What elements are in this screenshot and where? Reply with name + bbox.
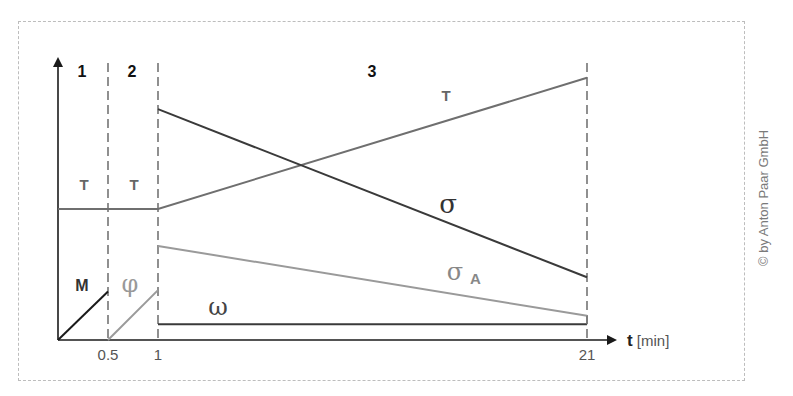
phase-label: 2 [128,63,137,80]
series-label-T: T [129,176,138,193]
x-axis-label: t [min] [627,331,669,350]
series-line-σ [158,109,587,277]
x-tick-label: 1 [154,346,162,363]
x-tick-label: 21 [579,346,596,363]
series-label-M: M [75,277,88,294]
phase-label: 1 [78,63,87,80]
phase-label: 3 [368,63,377,80]
x-tick-label: 0.5 [98,346,119,363]
series-label-T: T [79,176,88,193]
copyright-notice: © by Anton Paar GmbH [756,130,771,266]
process-chart: 0.5121t [min]123TTTσσAωMφ [0,0,793,396]
series-label-phi: φ [122,270,139,298]
series-label-sigma-a: σ [447,258,463,286]
series-label-sigma-a-subscript: A [470,270,481,287]
x-axis-unit: [min] [633,332,670,349]
series-label-sigma: σ [439,189,457,219]
series-line-M [58,292,108,340]
series-label-T: T [441,87,450,104]
series-label-omega: ω [208,293,228,321]
